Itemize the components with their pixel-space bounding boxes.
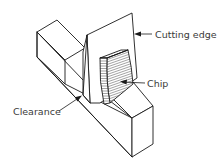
cutting-edge-leader: [134, 32, 152, 37]
clearance-leader: [59, 96, 82, 112]
label-chip: Chip: [147, 78, 168, 89]
label-cutting-edge: Cutting edge: [155, 29, 217, 40]
label-clearance: Clearance: [13, 106, 61, 117]
cutting-tool-diagram: Cutting edge Chip Clearance: [0, 0, 224, 167]
